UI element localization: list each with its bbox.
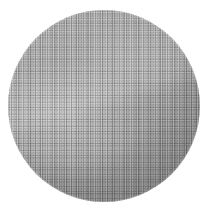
mesh-disc xyxy=(8,10,200,202)
disc-edge-highlight xyxy=(8,10,200,202)
image-canvas xyxy=(0,0,222,215)
